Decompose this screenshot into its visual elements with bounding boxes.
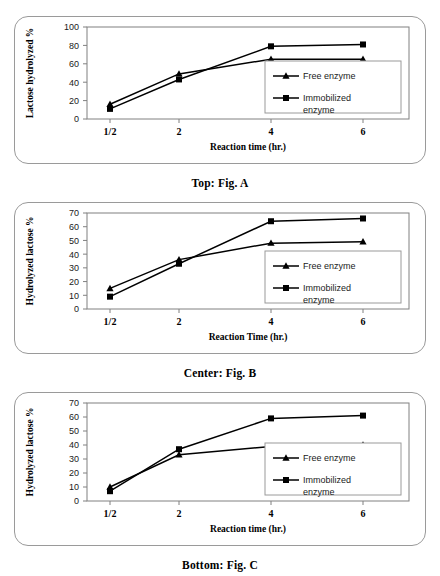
x-axis-tick-label: 1/2: [104, 508, 117, 519]
x-axis-tick-label: 6: [361, 126, 366, 137]
legend-label: Immobilized: [303, 475, 351, 485]
x-axis-tick-label: 4: [269, 126, 274, 137]
chart-svg-b: 010203040506070Hydrolyzed lactose %1/224…: [15, 203, 427, 355]
legend-label: Free enzyme: [303, 71, 356, 81]
series-marker-square: [360, 413, 366, 419]
series-marker-square: [283, 95, 289, 101]
series-marker-square: [176, 261, 182, 267]
x-axis-tick-label: 2: [177, 316, 182, 327]
figure-page: 020406080100Lactose hydrolyzed %1/2246Re…: [0, 0, 440, 576]
y-axis-tick-label: 0: [74, 496, 79, 506]
series-marker-square: [283, 477, 289, 483]
y-axis-tick-label: 40: [69, 440, 79, 450]
series-marker-square: [283, 285, 289, 291]
series-marker-square: [107, 294, 113, 300]
series-marker-square: [360, 215, 366, 221]
figure-caption-c: Bottom: Fig. C: [0, 559, 440, 571]
y-axis-tick-label: 20: [69, 96, 79, 106]
y-axis-tick-label: 60: [69, 412, 79, 422]
legend-label-cont: enzyme: [303, 487, 335, 497]
legend-label: Free enzyme: [303, 453, 356, 463]
chart-svg-a: 020406080100Lactose hydrolyzed %1/2246Re…: [15, 17, 427, 165]
y-axis-title: Hydrolyzed lactose %: [25, 407, 35, 496]
x-axis-title: Reaction Time (hr.): [209, 332, 288, 343]
series-marker-square: [268, 218, 274, 224]
x-axis-tick-label: 6: [361, 316, 366, 327]
x-axis-tick-label: 4: [269, 316, 274, 327]
y-axis-tick-label: 40: [69, 78, 79, 88]
legend-label-cont: enzyme: [303, 105, 335, 115]
y-axis-tick-label: 10: [69, 291, 79, 301]
x-axis-title: Reaction time (hr.): [210, 142, 286, 153]
y-axis-tick-label: 80: [69, 41, 79, 51]
y-axis-tick-label: 50: [69, 426, 79, 436]
series-marker-square: [176, 76, 182, 82]
series-marker-square: [176, 446, 182, 452]
legend-label-cont: enzyme: [303, 295, 335, 305]
y-axis-tick-label: 100: [64, 22, 79, 32]
y-axis-tick-label: 0: [74, 304, 79, 314]
x-axis-tick-label: 2: [177, 126, 182, 137]
figure-caption-a: Top: Fig. A: [0, 177, 440, 189]
panel-border-b: 010203040506070Hydrolyzed lactose %1/224…: [14, 202, 426, 354]
y-axis-tick-label: 70: [69, 208, 79, 218]
x-axis-title: Reaction time (hr.): [210, 524, 286, 535]
x-axis-tick-label: 2: [177, 508, 182, 519]
x-axis-tick-label: 1/2: [104, 126, 117, 137]
legend-label: Free enzyme: [303, 261, 356, 271]
y-axis-tick-label: 60: [69, 222, 79, 232]
series-marker-square: [107, 106, 113, 112]
y-axis-tick-label: 30: [69, 454, 79, 464]
series-marker-square: [107, 488, 113, 494]
y-axis-tick-label: 30: [69, 263, 79, 273]
x-axis-tick-label: 6: [361, 508, 366, 519]
series-marker-square: [360, 41, 366, 47]
y-axis-tick-label: 20: [69, 468, 79, 478]
chart-svg-c: 010203040506070Hydrolyzed lactose %1/224…: [15, 393, 427, 547]
figure-panel-a: 020406080100Lactose hydrolyzed %1/2246Re…: [0, 4, 440, 190]
y-axis-tick-label: 70: [69, 398, 79, 408]
figure-panel-b: 010203040506070Hydrolyzed lactose %1/224…: [0, 190, 440, 380]
legend-label: Immobilized: [303, 283, 351, 293]
figure-caption-b: Center: Fig. B: [0, 367, 440, 379]
y-axis-tick-label: 40: [69, 250, 79, 260]
panel-border-a: 020406080100Lactose hydrolyzed %1/2246Re…: [14, 16, 426, 164]
y-axis-tick-label: 10: [69, 482, 79, 492]
chart-b: 010203040506070Hydrolyzed lactose %1/224…: [15, 203, 425, 353]
y-axis-tick-label: 0: [74, 114, 79, 124]
y-axis-tick-label: 20: [69, 277, 79, 287]
chart-c: 010203040506070Hydrolyzed lactose %1/224…: [15, 393, 425, 545]
y-axis-title: Hydrolyzed lactose %: [25, 216, 35, 305]
y-axis-tick-label: 50: [69, 236, 79, 246]
chart-a: 020406080100Lactose hydrolyzed %1/2246Re…: [15, 17, 425, 163]
x-axis-tick-label: 4: [269, 508, 274, 519]
y-axis-tick-label: 60: [69, 59, 79, 69]
y-axis-title: Lactose hydrolyzed %: [25, 28, 35, 119]
series-marker-square: [268, 415, 274, 421]
series-marker-square: [268, 43, 274, 49]
panel-border-c: 010203040506070Hydrolyzed lactose %1/224…: [14, 392, 426, 546]
legend-label: Immobilized: [303, 93, 351, 103]
x-axis-tick-label: 1/2: [104, 316, 117, 327]
figure-panel-c: 010203040506070Hydrolyzed lactose %1/224…: [0, 380, 440, 572]
